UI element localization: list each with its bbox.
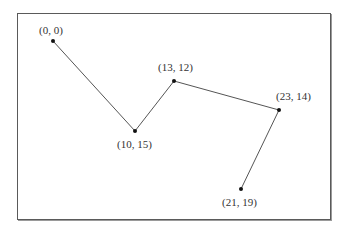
point-marker	[172, 79, 176, 83]
point-label: (10, 15)	[117, 138, 152, 150]
point-label: (13, 12)	[158, 61, 193, 73]
point-marker	[277, 108, 281, 112]
point-marker	[239, 187, 243, 191]
point-marker	[133, 129, 137, 133]
point-label: (21, 19)	[222, 196, 257, 208]
point-label: (23, 14)	[276, 90, 311, 102]
point-marker	[51, 39, 55, 43]
point-label: (0, 0)	[39, 24, 63, 36]
